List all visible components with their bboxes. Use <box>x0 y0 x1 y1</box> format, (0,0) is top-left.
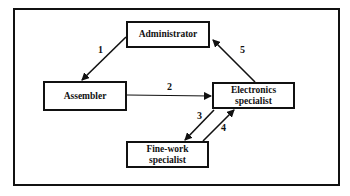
arrow-2 <box>127 95 211 96</box>
node-electronics-label-line1: Electronics <box>231 85 276 96</box>
edge-label-1: 1 <box>98 44 103 55</box>
arrow-1 <box>82 37 126 80</box>
node-assembler: Assembler <box>43 81 127 111</box>
arrow-5 <box>213 40 255 82</box>
edge-label-4: 4 <box>221 122 226 133</box>
node-administrator: Administrator <box>126 21 210 48</box>
edge-label-2: 2 <box>167 81 172 92</box>
node-administrator-label: Administrator <box>139 29 198 40</box>
node-finework-label-line1: Fine-work <box>146 144 188 155</box>
arrow-4 <box>203 110 234 141</box>
edge-label-3: 3 <box>197 110 202 121</box>
node-electronics-specialist: Electronics specialist <box>212 82 295 109</box>
edge-label-5: 5 <box>240 44 245 55</box>
node-assembler-label: Assembler <box>64 91 107 102</box>
node-finework-label-line2: specialist <box>149 155 186 166</box>
node-finework-specialist: Fine-work specialist <box>126 141 209 168</box>
node-electronics-label-line2: specialist <box>235 96 272 107</box>
